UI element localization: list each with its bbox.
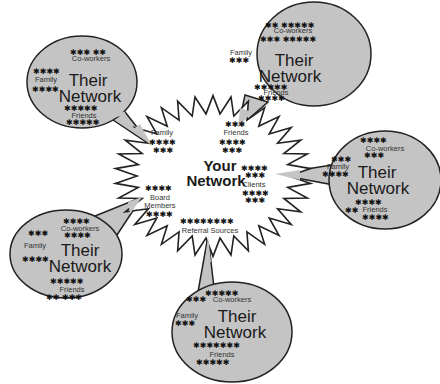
star-cluster: ✱✱ [345, 206, 359, 215]
category-clients: ✱✱✱✱ ✱✱✱ Clients ✱✱✱✱ ✱✱✱ [241, 164, 269, 205]
category-family-label: Family [151, 128, 173, 137]
star-cluster: ✱✱✱✱ [145, 184, 172, 193]
star-cluster: ✱✱✱ [229, 56, 249, 65]
coworkers-label: Co-workers [72, 54, 111, 63]
category-clients-label: Clients [243, 180, 266, 189]
star-cluster: ✱✱✱ [186, 295, 206, 304]
star-cluster: ✱✱✱✱✱ [66, 118, 100, 127]
star-cluster: ✱✱✱✱ [362, 213, 389, 222]
family-label: Family [24, 241, 46, 250]
star-cluster: ✱✱✱✱ [322, 170, 349, 179]
star-cluster: ✱✱✱✱ [64, 231, 91, 240]
coworkers-label: Co-workers [274, 26, 313, 35]
category-board-label-2: Members [144, 201, 176, 210]
diagram-svg: Your Network Family ✱✱✱✱ ✱✱✱ ✱✱✱ Friends… [0, 0, 440, 384]
coworkers-label: Co-workers [213, 295, 252, 304]
category-family: Family ✱✱✱✱ ✱✱✱ [149, 128, 176, 155]
family-label: Family [35, 75, 57, 84]
star-cluster: ✱✱✱ [175, 319, 195, 328]
star-cluster: ✱✱✱ [222, 146, 242, 155]
star-cluster: ✱✱✱ ✱✱✱✱✱ [260, 35, 316, 44]
star-cluster: ✱✱✱ [153, 146, 173, 155]
star-cluster: ✱✱✱✱ [32, 85, 59, 94]
category-referral-label: Referral Sources [182, 226, 239, 235]
their-network-title-2: Network [347, 179, 410, 198]
star-cluster: ✱✱✱✱✱✱✱✱ [180, 217, 234, 226]
your-network-title-line2: Network [186, 172, 246, 189]
star-cluster: ✱✱✱ [245, 171, 265, 180]
star-cluster: ✱✱✱✱ [22, 255, 49, 264]
star-cluster: ✱✱✱✱ [146, 210, 173, 219]
network-diagram: Your Network Family ✱✱✱✱ ✱✱✱ ✱✱✱ Friends… [0, 0, 440, 384]
star-cluster: ✱✱✱✱✱ [196, 358, 230, 367]
star-cluster: ✱✱✱✱✱✱✱ [193, 341, 240, 350]
category-referral-sources: ✱✱✱✱✱✱✱✱ Referral Sources [180, 217, 238, 235]
star-cluster: ✱✱ ✱✱✱ [46, 293, 82, 302]
their-network-title-2: Network [49, 257, 112, 276]
category-friends-label: Friends [223, 128, 248, 137]
star-cluster: ✱✱✱ [28, 229, 48, 238]
their-network-title-2: Network [204, 323, 267, 342]
star-cluster: ✱✱✱✱ [258, 94, 285, 103]
star-cluster: ✱✱✱ [245, 196, 265, 205]
category-board-members: ✱✱✱✱ Board Members ✱✱✱✱ [144, 184, 176, 219]
star-cluster: ✱✱✱ [364, 151, 384, 160]
